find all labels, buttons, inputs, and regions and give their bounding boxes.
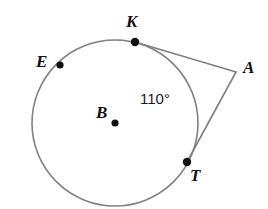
point-k-dot	[131, 38, 139, 46]
geometry-figure: K E A B T 110°	[0, 0, 268, 209]
point-label-b: B	[96, 104, 107, 121]
tangent-segment-at	[187, 72, 236, 162]
tangent-segment-ka	[135, 42, 236, 72]
point-t-dot	[183, 158, 191, 166]
arc-measure-label: 110°	[140, 91, 170, 106]
point-label-t: T	[190, 167, 200, 184]
point-label-k: K	[126, 13, 137, 30]
point-label-a: A	[243, 59, 254, 76]
point-b-dot	[111, 119, 118, 126]
point-e-dot	[56, 61, 63, 68]
point-label-e: E	[36, 53, 47, 70]
geometry-canvas	[0, 0, 268, 209]
